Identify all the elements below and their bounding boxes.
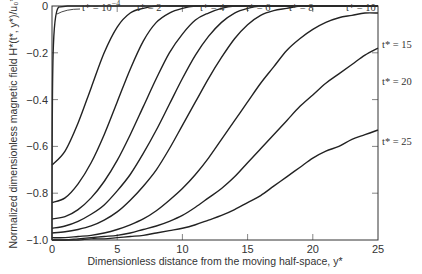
- y-tick-label: 0: [42, 0, 48, 12]
- curve-t-10: [52, 6, 378, 233]
- x-tick-label: 20: [307, 243, 319, 255]
- x-tick-label: 10: [176, 243, 188, 255]
- y-tick-label: −1.0: [26, 234, 48, 246]
- x-tick-label: 15: [241, 243, 253, 255]
- label-t-10: t* = 10: [346, 2, 376, 13]
- x-axis-label: Dimensionless distance from the moving h…: [87, 255, 342, 267]
- label-t-6: t* = 6: [246, 2, 271, 13]
- x-tick-label: 25: [372, 243, 384, 255]
- axis-ticks: 05101520250−0.2−0.4−0.6−0.8−1.0: [26, 0, 384, 255]
- label-t-15: t* = 15: [382, 39, 412, 50]
- curves: [52, 6, 378, 240]
- label-t-4: t* = 4: [200, 2, 225, 13]
- y-tick-label: −0.4: [26, 94, 48, 106]
- label-t-8: t* = 8: [289, 2, 314, 13]
- curve-t-4: [52, 6, 378, 203]
- label-t-2: t* = 2: [137, 2, 162, 13]
- y-tick-label: −0.8: [26, 187, 48, 199]
- curve-t-6: [52, 6, 378, 219]
- curve-t-8: [52, 6, 378, 228]
- arrow-t-1e-4: [57, 9, 80, 14]
- y-tick-label: −0.6: [26, 140, 48, 152]
- label-t-25: t* = 25: [382, 136, 412, 147]
- curve-t-15: [52, 13, 378, 238]
- plot-frame: [52, 6, 378, 240]
- x-tick-label: 5: [114, 243, 120, 255]
- x-tick-label: 0: [49, 243, 55, 255]
- curve-t-20: [52, 48, 378, 240]
- y-axis-label: Normalized dimensionless magnetic field …: [7, 0, 19, 249]
- y-tick-label: −0.2: [26, 47, 48, 59]
- label-t-20: t* = 20: [382, 76, 412, 87]
- label-t-1e-4: t* = 10−4: [82, 0, 120, 13]
- chart: 05101520250−0.2−0.4−0.6−0.8−1.0 Dimensio…: [0, 0, 422, 274]
- curve-t-10-4: [52, 6, 378, 240]
